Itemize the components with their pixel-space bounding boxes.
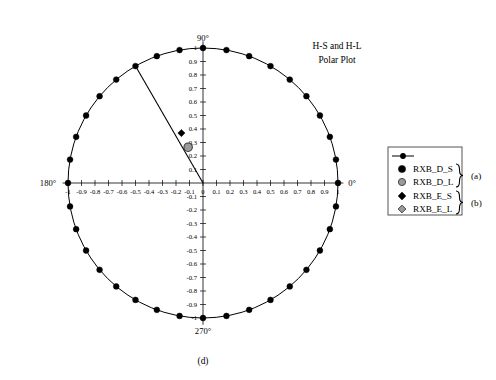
- legend-marker-filled-circle: [398, 165, 405, 172]
- legend-label-rxb-e-l: RXB_E_L: [413, 204, 453, 214]
- legend-group-label-b: (b): [471, 198, 482, 208]
- legend-marker-gray-circle: [398, 178, 405, 185]
- legend-canvas[interactable]: RXB_D_SRXB_D_LRXB_E_SRXB_E_L(a)(b): [0, 0, 496, 380]
- polar-plot-figure: -1-0.9-0.8-0.7-0.6-0.5-0.4-0.3-0.2-0.100…: [0, 0, 496, 380]
- legend-marker-line-with-dot: [400, 153, 406, 159]
- legend-label-rxb-d-s: RXB_D_S: [413, 164, 453, 174]
- legend-label-rxb-d-l: RXB_D_L: [413, 177, 454, 187]
- legend-group-label-a: (a): [471, 171, 481, 181]
- legend-label-rxb-e-s: RXB_E_S: [413, 191, 452, 201]
